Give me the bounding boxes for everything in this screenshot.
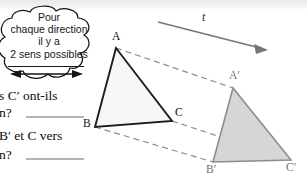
translation-vector-arrow <box>158 22 268 54</box>
triangle-abc <box>95 48 172 127</box>
bubble-line-2: chaque direction <box>3 23 95 35</box>
question-1-line-1: s C′ ont-ils <box>0 88 57 104</box>
question-1-line-2: n? <box>0 105 12 121</box>
vector-label-t: t <box>202 10 205 25</box>
question-2-line-1: B′ et C vers <box>0 128 62 144</box>
vertex-label-c: C <box>175 106 183 118</box>
dashed-line-b-bprime <box>95 127 213 162</box>
vertex-label-c-prime: C′ <box>286 161 296 173</box>
bubble-line-1: Pour <box>3 11 95 23</box>
vertex-label-a-prime: A′ <box>229 69 240 81</box>
triangle-a-prime-b-prime-c-prime <box>213 88 291 162</box>
thought-bubble-text: Pour chaque direction il y a 2 sens poss… <box>3 11 95 60</box>
vertex-label-b-prime: B′ <box>206 163 216 175</box>
vertex-label-a: A <box>112 30 120 42</box>
vertex-label-b: B <box>83 117 91 129</box>
bubble-line-4: 2 sens possibles <box>3 48 95 60</box>
figure-page: Pour chaque direction il y a 2 sens poss… <box>0 0 307 183</box>
bubble-line-3: il y a <box>3 35 95 47</box>
question-2-line-2: n? <box>0 147 12 163</box>
